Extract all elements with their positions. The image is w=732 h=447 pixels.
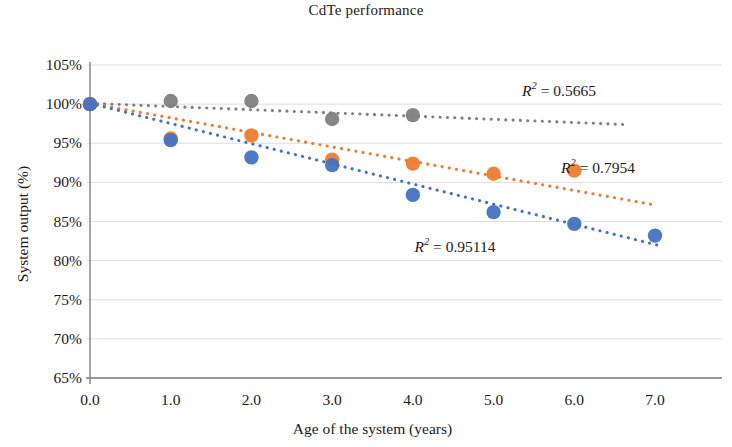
r2-value: = 0.7954 — [576, 159, 635, 176]
r2-blue: R2 = 0.95114 — [414, 236, 495, 255]
data-point — [648, 228, 662, 242]
r2-value: = 0.5665 — [537, 82, 596, 99]
data-point — [406, 156, 420, 170]
plot-area — [0, 0, 732, 447]
r2-value: = 0.95114 — [429, 238, 495, 255]
data-point — [164, 94, 178, 108]
data-point — [406, 108, 420, 122]
data-point — [486, 167, 500, 181]
r2-gray: R2 = 0.5665 — [522, 80, 596, 99]
data-point — [244, 94, 258, 108]
data-point — [244, 128, 258, 142]
chart-figure: CdTe performance System output (%) Age o… — [0, 0, 732, 447]
data-point — [164, 133, 178, 147]
data-point — [486, 205, 500, 219]
r2-orange: R2 = 0.7954 — [561, 157, 635, 176]
grid-lines — [87, 65, 722, 378]
data-point — [325, 158, 339, 172]
data-point — [567, 217, 581, 231]
data-point — [406, 188, 420, 202]
data-point — [244, 150, 258, 164]
axis-lines — [86, 62, 722, 384]
data-point — [325, 112, 339, 126]
data-point — [83, 97, 97, 111]
trendline-orange-series — [90, 103, 651, 204]
